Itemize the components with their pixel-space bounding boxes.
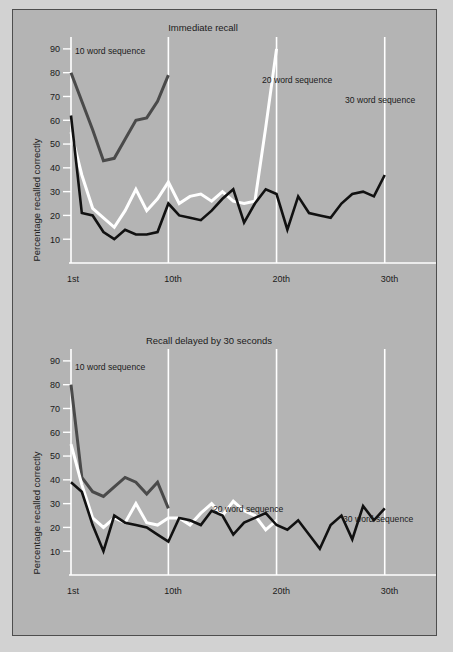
x-tick-label: 30th (381, 586, 399, 596)
series-label-30-word-bottom: 30 word sequence (343, 514, 413, 524)
immediate-recall-svg: Immediate recall Percentage recalled cor… (13, 10, 438, 323)
chart-immediate-recall: Immediate recall Percentage recalled cor… (13, 10, 438, 323)
y-tick-label: 70 (50, 92, 60, 102)
series-label-20-word-bottom: 20 word sequence (213, 504, 283, 514)
series-label-20-word-top: 20 word sequence (262, 75, 332, 85)
y-ticks-bottom: 102030405060708090 (50, 356, 71, 556)
x-tick-label: 20th (273, 586, 291, 596)
series-line-20-word-sequence (71, 49, 277, 227)
y-tick-label: 10 (50, 235, 60, 245)
series-line-10-word-sequence (71, 73, 168, 161)
series-line-30-word-sequence (71, 482, 385, 551)
y-tick-label: 20 (50, 211, 60, 221)
y-tick-label: 40 (50, 475, 60, 485)
y-tick-label: 70 (50, 404, 60, 414)
chart-delayed-recall: Recall delayed by 30 seconds Percentage … (13, 323, 438, 635)
y-tick-label: 30 (50, 187, 60, 197)
series-lines-top (71, 49, 385, 239)
x-ticks-bottom: 1st10th20th30th (67, 586, 398, 596)
x-tick-label: 10th (164, 586, 182, 596)
delayed-recall-svg: Recall delayed by 30 seconds Percentage … (13, 323, 438, 635)
x-ticks-top: 1st10th20th30th (67, 274, 398, 284)
x-tick-label: 20th (273, 274, 291, 284)
page-canvas: Immediate recall Percentage recalled cor… (0, 0, 453, 652)
y-axis-title-bottom: Percentage recalled correctly (31, 451, 42, 574)
y-ticks-top: 102030405060708090 (50, 44, 71, 244)
y-tick-label: 80 (50, 380, 60, 390)
gridlines-bottom (69, 349, 436, 575)
x-tick-label: 30th (381, 274, 399, 284)
y-tick-label: 40 (50, 163, 60, 173)
series-label-10-word-bottom: 10 word sequence (75, 362, 145, 372)
chart-title-delayed: Recall delayed by 30 seconds (146, 335, 272, 346)
series-line-20-word-sequence (71, 444, 277, 530)
y-tick-label: 50 (50, 451, 60, 461)
y-tick-label: 20 (50, 523, 60, 533)
series-lines-bottom (71, 385, 385, 552)
series-label-30-word-top: 30 word sequence (345, 95, 415, 105)
x-tick-label: 1st (67, 586, 80, 596)
series-line-10-word-sequence (71, 385, 168, 509)
figure-frame: Immediate recall Percentage recalled cor… (12, 9, 437, 636)
y-tick-label: 90 (50, 44, 60, 54)
y-tick-label: 30 (50, 499, 60, 509)
series-label-10-word-top: 10 word sequence (75, 46, 145, 56)
y-tick-label: 60 (50, 116, 60, 126)
y-tick-label: 60 (50, 428, 60, 438)
y-tick-label: 50 (50, 139, 60, 149)
chart-title-immediate: Immediate recall (168, 22, 238, 33)
y-tick-label: 90 (50, 356, 60, 366)
x-tick-label: 1st (67, 274, 80, 284)
y-tick-label: 80 (50, 68, 60, 78)
y-tick-label: 10 (50, 547, 60, 557)
x-tick-label: 10th (164, 274, 182, 284)
y-axis-title-top: Percentage recalled correctly (31, 138, 42, 261)
